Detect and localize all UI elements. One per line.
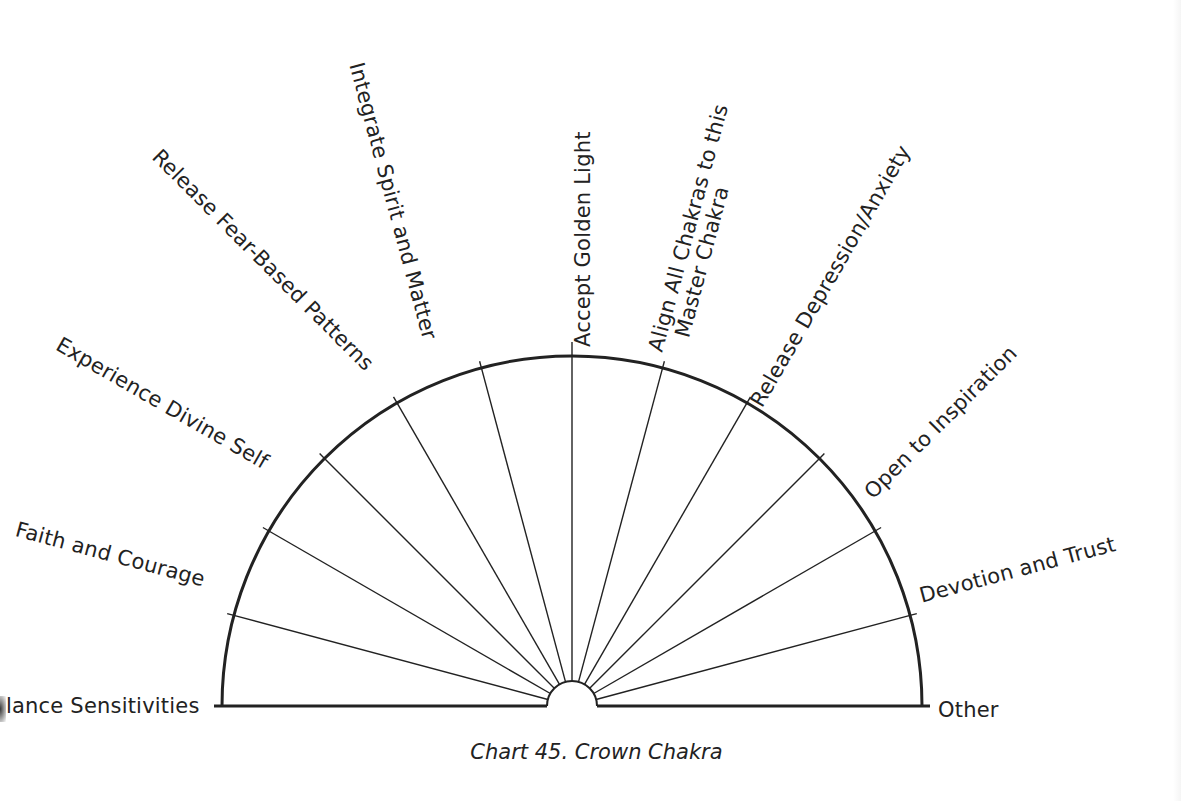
ray-extra [596,615,910,699]
ray-faith-and-courage [234,615,548,699]
chart-caption: Chart 45. Crown Chakra [0,740,1181,764]
ray-open-to-inspiration [590,459,820,689]
ray-release-fear-based-patterns [325,459,555,689]
label-balance-sensitivities: lance Sensitivities [6,695,200,717]
ray-accept-golden-light [481,368,565,682]
ray-align-all-chakras [579,368,663,682]
ray-devotion-and-trust [594,531,875,694]
ray-release-depression-anxiety [585,403,748,684]
rays [234,356,910,700]
page-edge-shadow [1173,0,1181,801]
inner-semicircle [547,681,597,706]
ray-experience-divine-self [269,531,550,694]
label-other: Other [938,699,999,721]
ray-integrate-spirit-and-matter [397,403,560,684]
label-accept-golden-light: Accept Golden Light [572,131,594,347]
